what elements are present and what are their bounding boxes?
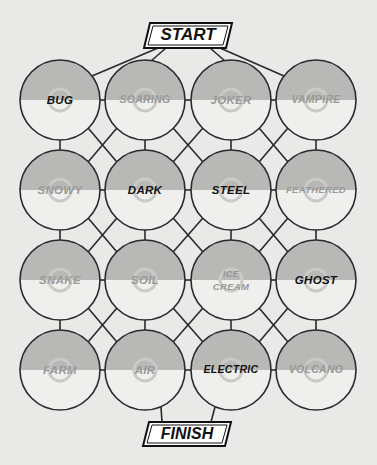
finish-connector bbox=[161, 407, 162, 422]
node-electric[interactable]: ELECTRIC bbox=[191, 330, 271, 410]
node-label: DARK bbox=[128, 184, 163, 196]
node-steel[interactable]: STEEL bbox=[191, 150, 271, 230]
node-farm[interactable]: FARM bbox=[20, 330, 100, 410]
node-label: CREAM bbox=[213, 281, 250, 292]
node-ghost[interactable]: GHOST bbox=[276, 240, 356, 320]
node-label: ELECTRIC bbox=[204, 363, 259, 375]
node-soaring[interactable]: SOARING bbox=[105, 60, 185, 140]
node-label: JOKER bbox=[210, 94, 252, 106]
maze-board: BUGSOARINGJOKERVAMPIRESNOWYDARKSTEELFEAT… bbox=[0, 0, 377, 465]
finish-badge[interactable]: FINISH bbox=[143, 422, 231, 446]
node-volcano[interactable]: VOLCANO bbox=[276, 330, 356, 410]
node-dark[interactable]: DARK bbox=[105, 150, 185, 230]
node-label: SOIL bbox=[131, 274, 159, 286]
finish-label: FINISH bbox=[161, 425, 214, 442]
node-label: STEEL bbox=[212, 184, 251, 196]
node-ice-cream[interactable]: ICECREAM bbox=[191, 240, 271, 320]
node-label: SNAKE bbox=[39, 274, 81, 286]
node-label: VOLCANO bbox=[289, 363, 344, 375]
node-label: FARM bbox=[43, 364, 77, 376]
node-label: AIR bbox=[134, 364, 156, 376]
node-label: ICE bbox=[223, 268, 240, 279]
finish-connector bbox=[211, 407, 215, 422]
node-bug[interactable]: BUG bbox=[20, 60, 100, 140]
node-label: SOARING bbox=[119, 93, 170, 105]
node-snake[interactable]: SNAKE bbox=[20, 240, 100, 320]
node-snowy[interactable]: SNOWY bbox=[20, 150, 100, 230]
node-air[interactable]: AIR bbox=[105, 330, 185, 410]
node-label: SNOWY bbox=[38, 184, 84, 196]
node-label: FEATHERED bbox=[286, 184, 346, 195]
node-label: GHOST bbox=[295, 274, 338, 286]
node-label: BUG bbox=[47, 94, 73, 106]
start-badge[interactable]: START bbox=[144, 23, 232, 48]
node-vampire[interactable]: VAMPIRE bbox=[276, 60, 356, 140]
start-label: START bbox=[160, 25, 217, 44]
node-joker[interactable]: JOKER bbox=[191, 60, 271, 140]
node-soil[interactable]: SOIL bbox=[105, 240, 185, 320]
node-feathered[interactable]: FEATHERED bbox=[276, 150, 356, 230]
node-label: VAMPIRE bbox=[291, 93, 341, 105]
